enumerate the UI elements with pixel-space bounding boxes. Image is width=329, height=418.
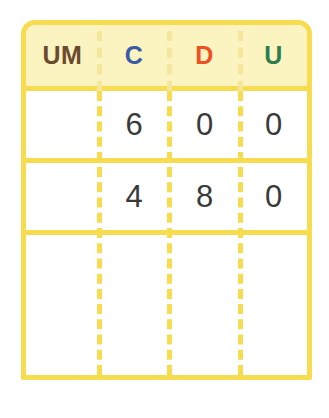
column-header-c-label: C	[125, 43, 144, 68]
cell-d[interactable]: 0	[169, 91, 240, 158]
place-value-table: UM C D U 6 0 0 4 8 0	[21, 20, 312, 380]
cell-um[interactable]	[26, 163, 99, 230]
cell-u[interactable]: 0	[240, 163, 307, 230]
column-header-d-label: D	[195, 43, 214, 68]
cell-um[interactable]	[26, 235, 99, 376]
cell-c[interactable]: 6	[99, 91, 169, 158]
cell-d[interactable]: 8	[169, 163, 240, 230]
table-row: 4 8 0	[26, 163, 307, 235]
cell-u[interactable]	[240, 235, 307, 376]
column-header-u: U	[240, 25, 307, 86]
column-header-d: D	[169, 25, 240, 86]
table-body: 6 0 0 4 8 0	[26, 91, 307, 375]
table-row: 6 0 0	[26, 91, 307, 163]
table-header-row: UM C D U	[26, 25, 307, 91]
cell-d[interactable]	[169, 235, 240, 376]
column-header-um: UM	[26, 25, 99, 86]
table-row-answer	[26, 235, 307, 376]
column-header-um-label: UM	[43, 43, 83, 68]
cell-um[interactable]	[26, 91, 99, 158]
cell-c[interactable]	[99, 235, 169, 376]
cell-u[interactable]: 0	[240, 91, 307, 158]
place-value-worksheet: UM C D U 6 0 0 4 8 0	[0, 0, 329, 418]
cell-c[interactable]: 4	[99, 163, 169, 230]
column-header-c: C	[99, 25, 169, 86]
column-header-u-label: U	[264, 43, 283, 68]
